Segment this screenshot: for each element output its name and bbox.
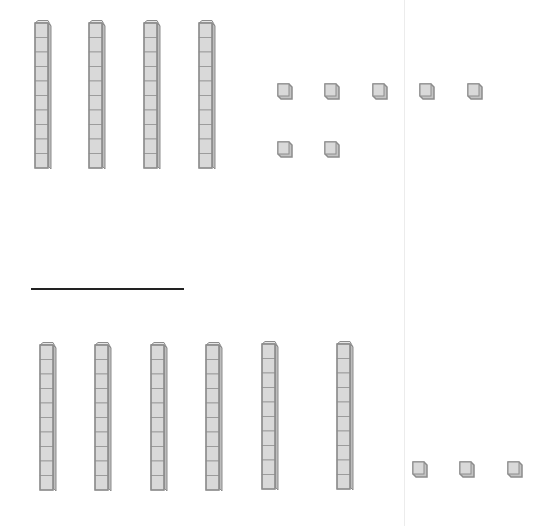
top-ones-cube-4: [418, 83, 436, 101]
top-ones-cube-3: [371, 83, 389, 101]
bottom-tens-rod-3: [150, 342, 168, 492]
bottom-ones-cube-3: [506, 461, 524, 479]
top-tens-rod-4: [198, 20, 216, 170]
top-ones-cube-1: [276, 83, 294, 101]
vertical-divider: [404, 0, 405, 526]
bottom-ones-cube-2: [458, 461, 476, 479]
top-tens-rod-1: [34, 20, 52, 170]
bottom-tens-rod-6: [336, 341, 354, 491]
bottom-tens-rod-5: [261, 341, 279, 491]
top-ones-cube-2: [323, 83, 341, 101]
top-ones-cube-6: [276, 141, 294, 159]
bottom-tens-rod-1: [39, 342, 57, 492]
bottom-tens-rod-4: [205, 342, 223, 492]
top-tens-rod-2: [88, 20, 106, 170]
bottom-ones-cube-1: [411, 461, 429, 479]
bottom-tens-rod-2: [94, 342, 112, 492]
top-ones-cube-5: [466, 83, 484, 101]
answer-line: [31, 288, 184, 290]
top-tens-rod-3: [143, 20, 161, 170]
top-ones-cube-7: [323, 141, 341, 159]
